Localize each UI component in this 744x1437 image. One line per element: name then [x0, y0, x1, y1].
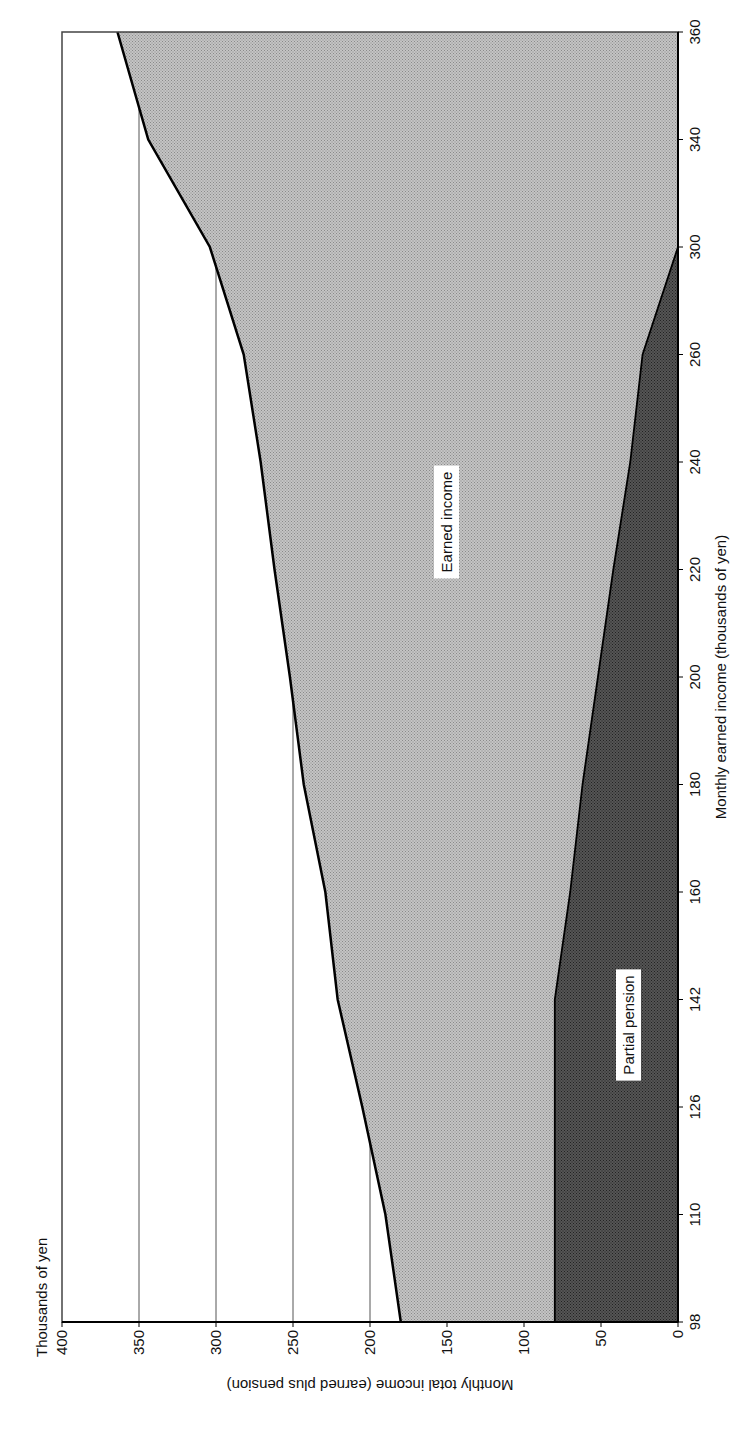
y-axis-title: Monthly total income (earned plus pensio…	[227, 1377, 514, 1394]
partial-pension-label: Partial pension	[616, 969, 641, 1080]
x-tick-label: 98	[686, 1314, 703, 1331]
x-tick-label: 240	[686, 449, 703, 474]
y-tick-label: 250	[284, 1330, 301, 1355]
earned-income-label: Earned income	[434, 466, 459, 579]
partial-pension-text: Partial pension	[620, 975, 637, 1074]
y-tick-label: 100	[515, 1330, 532, 1355]
x-tick-label: 110	[686, 1203, 703, 1227]
x-axis-title: Monthly earned income (thousands of yen)	[712, 535, 729, 819]
y-tick-label: 0	[669, 1330, 686, 1338]
plot-area	[62, 32, 678, 1322]
y-tick-label: 400	[53, 1330, 70, 1355]
x-tick-label: 220	[686, 557, 703, 582]
x-tick-label: 126	[686, 1094, 703, 1119]
x-tick-label: 200	[686, 664, 703, 689]
y-tick-label: 50	[592, 1330, 609, 1347]
units-label: Thousands of yen	[33, 1238, 50, 1357]
x-tick-label: 360	[686, 19, 703, 44]
x-tick-label: 160	[686, 879, 703, 904]
y-tick-label: 300	[207, 1330, 224, 1355]
x-tick-label: 260	[686, 342, 703, 367]
x-tick-label: 142	[686, 987, 703, 1012]
x-tick-label: 300	[686, 234, 703, 259]
stacked-area-chart: 0501001502002503003504009811012614216018…	[0, 0, 744, 1437]
y-tick-label: 350	[130, 1330, 147, 1355]
rotated-chart-stage: 0501001502002503003504009811012614216018…	[0, 0, 744, 1437]
x-tick-label: 180	[686, 772, 703, 797]
y-tick-label: 200	[361, 1330, 378, 1355]
x-tick-label: 340	[686, 127, 703, 152]
y-tick-label: 150	[438, 1330, 455, 1355]
earned-income-text: Earned income	[438, 472, 455, 573]
